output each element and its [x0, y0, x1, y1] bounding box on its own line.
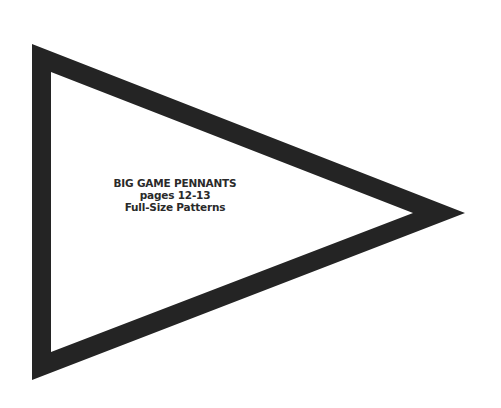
pattern-title: BIG GAME PENNANTS — [105, 177, 245, 189]
pattern-pages: pages 12-13 — [105, 189, 245, 201]
pennant-outline — [32, 44, 465, 380]
pattern-label: BIG GAME PENNANTS pages 12-13 Full-Size … — [105, 177, 245, 213]
pattern-subtitle: Full-Size Patterns — [105, 201, 245, 213]
pennant-pattern — [0, 0, 501, 408]
